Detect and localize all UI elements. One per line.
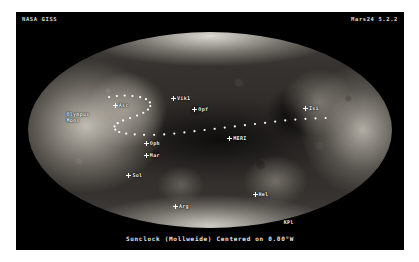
marker-cross-icon <box>144 153 149 158</box>
marker-cross-icon <box>253 192 258 197</box>
map-marker-hellas[interactable]: Hel <box>259 192 269 198</box>
marker-cross-icon <box>171 96 176 101</box>
map-marker-viking-1[interactable]: Vik1 <box>177 96 190 102</box>
projection-caption: Sunclock (Mollweide) Centered on 0.00°W <box>16 235 404 242</box>
marker-cross-icon <box>227 136 232 141</box>
marker-label: Hel <box>259 192 269 198</box>
footer-bar: Sunclock (Mollweide) Centered on 0.00°W <box>16 230 404 250</box>
map-marker-mariner[interactable]: Mar <box>150 153 160 159</box>
header-bar: NASA GISS Mars24 5.2.2 <box>16 12 404 30</box>
marker-label-second-line: Mons <box>66 118 89 124</box>
map-marker-kpl[interactable]: KPl <box>284 220 294 226</box>
marker-label: KPl <box>284 220 294 226</box>
map-marker-solis[interactable]: Sol <box>132 173 142 179</box>
marker-cross-icon <box>113 103 118 108</box>
marker-label: MERI <box>233 136 246 142</box>
marker-label: Arg <box>179 204 189 210</box>
map-marker-isidis[interactable]: Isi <box>309 106 319 112</box>
mars-map[interactable]: OlympusMonsAscVik1OpfOphMarSolArgMERIIsi… <box>16 30 404 230</box>
marker-cross-icon <box>144 141 149 146</box>
marker-label: Asc <box>119 103 129 109</box>
mollweide-globe <box>28 32 392 228</box>
map-marker-ascraeus[interactable]: Asc <box>119 103 129 109</box>
marker-label: Vik1 <box>177 96 190 102</box>
marker-label: Oph <box>150 141 160 147</box>
marker-label: Mar <box>150 153 160 159</box>
map-marker-olympus-mons[interactable]: OlympusMons <box>66 112 89 124</box>
marker-label: Isi <box>309 106 319 112</box>
app-version-label: Mars24 5.2.2 <box>351 16 398 22</box>
marker-cross-icon <box>303 106 308 111</box>
map-marker-meridiani[interactable]: MERI <box>233 136 246 142</box>
marker-cross-icon <box>173 204 178 209</box>
marker-label: Opf <box>198 107 208 113</box>
map-panel: NASA GISS Mars24 5.2.2 OlympusMonsAscVik… <box>16 12 404 250</box>
mars24-window: NASA GISS Mars24 5.2.2 OlympusMonsAscVik… <box>0 0 419 262</box>
marker-label: Sol <box>132 173 142 179</box>
agency-label: NASA GISS <box>22 16 57 22</box>
marker-cross-icon <box>192 107 197 112</box>
map-marker-argyre[interactable]: Arg <box>179 204 189 210</box>
map-marker-opportunity[interactable]: Opf <box>198 107 208 113</box>
map-marker-ophir[interactable]: Oph <box>150 141 160 147</box>
marker-cross-icon <box>126 173 131 178</box>
